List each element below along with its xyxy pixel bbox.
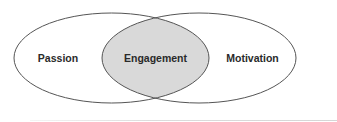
label-engagement: Engagement [124,52,188,64]
bottom-divider [30,120,337,121]
label-passion: Passion [38,52,78,64]
venn-diagram: Passion Engagement Motivation [0,0,337,122]
label-motivation: Motivation [226,52,279,64]
